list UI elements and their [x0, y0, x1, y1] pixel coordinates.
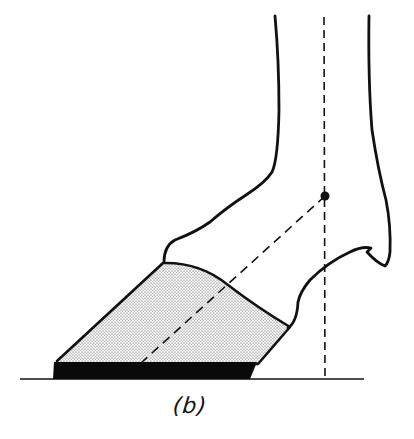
leg-outline-back [288, 16, 390, 328]
leg-outline-front [164, 16, 279, 262]
figure-caption: (b) [169, 393, 212, 418]
hoof-wall-stippled [57, 263, 290, 364]
joint-center-dot [321, 192, 330, 201]
hoof-diagram [0, 0, 414, 439]
shoe-sole-bar [53, 362, 257, 379]
